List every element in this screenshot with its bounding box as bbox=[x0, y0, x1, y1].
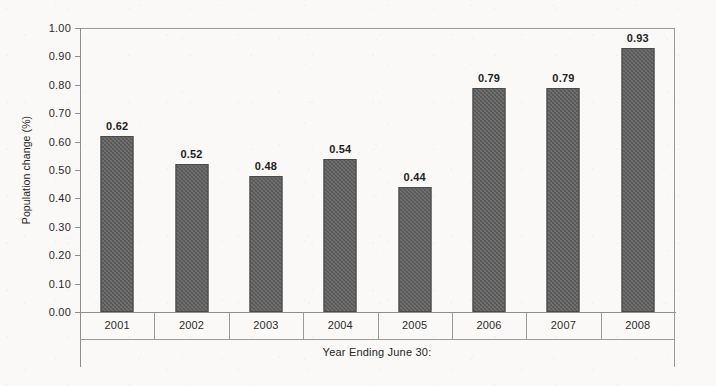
x-axis-separator bbox=[378, 313, 379, 339]
bar bbox=[324, 159, 357, 312]
x-axis-category-label: 2006 bbox=[476, 319, 501, 331]
y-axis-tick-label: 0.20 bbox=[49, 249, 71, 261]
x-axis-category-label: 2007 bbox=[551, 319, 576, 331]
y-axis-tick-label: 0.40 bbox=[49, 192, 71, 204]
bar-value-label: 0.79 bbox=[478, 72, 500, 84]
x-axis-separator bbox=[229, 313, 230, 339]
bar-value-label: 0.62 bbox=[106, 120, 128, 132]
chart-figure: Population change (%) 1.000.900.800.700.… bbox=[0, 0, 716, 386]
bar-value-label: 0.93 bbox=[627, 32, 649, 44]
bar-slot: 0.93 bbox=[601, 28, 675, 312]
bar bbox=[547, 88, 580, 312]
x-axis-category-label: 2008 bbox=[625, 319, 650, 331]
x-axis-title: Year Ending June 30: bbox=[323, 346, 432, 358]
x-axis-category-label: 2004 bbox=[328, 319, 353, 331]
x-axis-separator bbox=[452, 313, 453, 339]
y-axis-tick-label: 0.30 bbox=[49, 221, 71, 233]
y-axis-tick-label: 0.00 bbox=[49, 306, 71, 318]
category-band-baseline bbox=[80, 339, 675, 340]
bar-slot: 0.54 bbox=[303, 28, 377, 312]
y-axis-tick-label: 0.90 bbox=[49, 50, 71, 62]
bar bbox=[621, 48, 654, 312]
bar bbox=[249, 176, 282, 312]
y-axis-tick-label: 1.00 bbox=[49, 22, 71, 34]
bar-slot: 0.52 bbox=[154, 28, 228, 312]
bar-value-label: 0.52 bbox=[180, 148, 202, 160]
y-axis-tick bbox=[75, 312, 80, 313]
x-axis-category-label: 2003 bbox=[253, 319, 278, 331]
x-axis-separator bbox=[526, 313, 527, 339]
y-axis-title: Population change (%) bbox=[20, 116, 32, 224]
x-axis-category-label: 2005 bbox=[402, 319, 427, 331]
y-axis-tick-label: 0.80 bbox=[49, 79, 71, 91]
y-axis-tick-label: 0.50 bbox=[49, 164, 71, 176]
x-axis-separator bbox=[601, 313, 602, 339]
bar-value-label: 0.44 bbox=[404, 171, 426, 183]
bar-slot: 0.44 bbox=[378, 28, 452, 312]
y-axis-tick-label: 0.60 bbox=[49, 136, 71, 148]
plot-area: 1.000.900.800.700.600.500.400.300.200.10… bbox=[80, 28, 675, 313]
x-axis-separator bbox=[154, 313, 155, 339]
bar-value-label: 0.54 bbox=[329, 143, 351, 155]
bar bbox=[473, 88, 506, 312]
bar bbox=[398, 187, 431, 312]
bar-value-label: 0.79 bbox=[552, 72, 574, 84]
bar bbox=[101, 136, 134, 312]
y-axis-tick-label: 0.70 bbox=[49, 107, 71, 119]
y-axis-tick-label: 0.10 bbox=[49, 278, 71, 290]
bar-value-label: 0.48 bbox=[255, 160, 277, 172]
x-axis-separator bbox=[303, 313, 304, 339]
bar-slot: 0.79 bbox=[452, 28, 526, 312]
bar bbox=[175, 164, 208, 312]
bar-slot: 0.48 bbox=[229, 28, 303, 312]
x-axis-category-label: 2002 bbox=[179, 319, 204, 331]
bar-slot: 0.62 bbox=[80, 28, 154, 312]
bar-slot: 0.79 bbox=[526, 28, 600, 312]
x-axis-category-label: 2001 bbox=[105, 319, 130, 331]
